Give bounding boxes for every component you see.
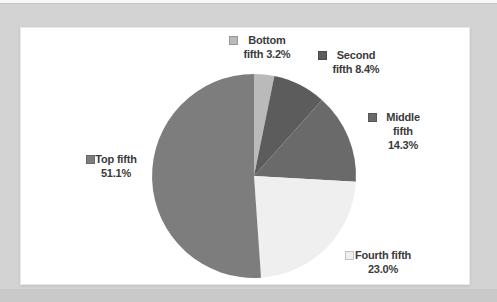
legend-label-line: 51.1% <box>90 166 142 180</box>
legend-label-line: Middle <box>381 110 425 124</box>
legend-label-line: fifth 8.4% <box>327 62 385 76</box>
legend-swatch-middle-fifth <box>368 113 377 122</box>
pie-slice-fourth-fifth <box>254 176 356 278</box>
legend-label-middle-fifth: Middle fifth 14.3% <box>381 110 425 152</box>
legend-label-second-fifth: Second fifth 8.4% <box>327 48 385 76</box>
legend-label-line: fifth 3.2% <box>238 47 296 61</box>
legend-label-line: Second <box>327 48 385 62</box>
legend-label-top-fifth: Top fifth 51.1% <box>90 152 142 180</box>
pie-slice-top-fifth <box>152 74 261 278</box>
legend-label-line: 23.0% <box>352 262 414 276</box>
legend-label-line: Bottom <box>238 33 296 47</box>
legend-label-line: Fourth fifth <box>352 248 414 262</box>
legend-swatch-bottom-fifth <box>229 36 238 45</box>
legend-label-line: 14.3% <box>381 138 425 152</box>
legend-label-fourth-fifth: Fourth fifth 23.0% <box>352 248 414 276</box>
legend-label-line: Top fifth <box>90 152 142 166</box>
legend-label-bottom-fifth: Bottom fifth 3.2% <box>238 33 296 61</box>
legend-label-line: fifth <box>381 124 425 138</box>
page-background: Bottom fifth 3.2% Second fifth 8.4% Midd… <box>0 0 497 302</box>
legend-swatch-second-fifth <box>318 51 327 60</box>
